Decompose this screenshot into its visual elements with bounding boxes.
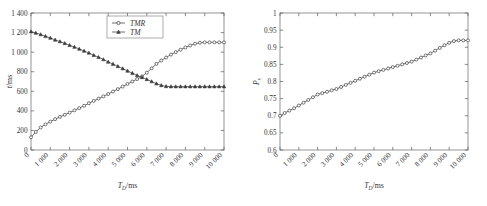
marker-circle-Ps bbox=[391, 66, 394, 69]
marker-circle-Ps bbox=[283, 112, 286, 115]
y-tick-label: 200 bbox=[17, 127, 28, 135]
marker-circle-TMR bbox=[107, 93, 110, 96]
y-tick-label: 0.85 bbox=[264, 61, 277, 69]
y-tick-label: 400 bbox=[17, 107, 28, 115]
marker-circle-Ps bbox=[311, 96, 314, 99]
marker-circle-TMR bbox=[39, 126, 42, 129]
marker-triangle-TM bbox=[29, 30, 32, 33]
x-tick-label: 9 000 bbox=[188, 151, 205, 168]
marker-circle-Ps bbox=[443, 44, 446, 47]
y-tick-label: 0 bbox=[24, 147, 28, 155]
marker-triangle-TM bbox=[68, 43, 71, 46]
marker-circle-Ps bbox=[457, 39, 460, 42]
plot-frame bbox=[280, 13, 468, 150]
legend-marker-circle bbox=[117, 21, 120, 24]
marker-circle-Ps bbox=[326, 90, 329, 93]
marker-circle-TMR bbox=[73, 109, 76, 112]
x-axis-unit: /ms bbox=[126, 181, 137, 190]
marker-circle-Ps bbox=[434, 49, 437, 52]
marker-circle-Ps bbox=[279, 114, 282, 117]
y-tick-label: 800 bbox=[17, 68, 28, 76]
marker-circle-TMR bbox=[169, 53, 172, 56]
y-tick-label: 0.75 bbox=[264, 95, 277, 103]
y-axis-unit: /ms bbox=[5, 75, 14, 86]
marker-circle-Ps bbox=[340, 85, 343, 88]
marker-circle-TMR bbox=[155, 62, 158, 65]
y-tick-label: 0.7 bbox=[268, 112, 277, 120]
marker-circle-TMR bbox=[194, 42, 197, 45]
x-tick-label: 10 000 bbox=[448, 151, 468, 171]
marker-circle-TMR bbox=[58, 115, 61, 118]
marker-circle-TMR bbox=[116, 88, 119, 91]
marker-triangle-TM bbox=[73, 45, 76, 48]
marker-circle-TMR bbox=[49, 120, 52, 123]
x-axis-title: TD/ms bbox=[118, 181, 138, 191]
marker-circle-Ps bbox=[373, 71, 376, 74]
marker-circle-Ps bbox=[344, 83, 347, 86]
x-tick-label: 7 000 bbox=[394, 151, 411, 168]
y-tick-label: 1 bbox=[273, 10, 277, 18]
marker-circle-TMR bbox=[34, 130, 37, 133]
marker-circle-TMR bbox=[218, 41, 221, 44]
figure-container: 01 0002 0003 0004 0005 0006 0007 0008 00… bbox=[0, 0, 487, 206]
x-tick-label: 8 000 bbox=[413, 151, 430, 168]
marker-circle-Ps bbox=[396, 64, 399, 67]
x-tick-label: 3 000 bbox=[72, 151, 89, 168]
x-tick-label: 6 000 bbox=[130, 151, 147, 168]
marker-triangle-TM bbox=[97, 55, 100, 58]
marker-triangle-TM bbox=[222, 85, 225, 88]
marker-circle-Ps bbox=[420, 56, 423, 59]
y-tick-label: 0.6 bbox=[268, 147, 277, 155]
marker-circle-TMR bbox=[184, 46, 187, 49]
marker-circle-TMR bbox=[198, 41, 201, 44]
y-tick-label: 1 400 bbox=[11, 10, 28, 18]
marker-triangle-TM bbox=[82, 49, 85, 52]
marker-triangle-TM bbox=[155, 82, 158, 85]
marker-triangle-TM bbox=[126, 69, 129, 72]
marker-circle-TMR bbox=[223, 41, 226, 44]
marker-circle-TMR bbox=[165, 56, 168, 59]
marker-circle-Ps bbox=[293, 107, 296, 110]
marker-triangle-TM bbox=[107, 60, 110, 63]
marker-circle-Ps bbox=[358, 77, 361, 80]
marker-circle-TMR bbox=[136, 78, 139, 81]
marker-circle-TMR bbox=[160, 59, 163, 62]
marker-circle-TMR bbox=[78, 107, 81, 110]
marker-circle-Ps bbox=[438, 46, 441, 49]
marker-triangle-TM bbox=[121, 67, 124, 70]
marker-circle-TMR bbox=[203, 41, 206, 44]
marker-triangle-TM bbox=[145, 78, 148, 81]
marker-circle-Ps bbox=[363, 75, 366, 78]
series-line-Ps bbox=[280, 40, 468, 115]
chart-panel-right: 01 0002 0003 0004 0005 0006 0007 0008 00… bbox=[244, 0, 487, 206]
marker-triangle-TM bbox=[87, 51, 90, 54]
x-tick-label: 2 000 bbox=[300, 151, 317, 168]
marker-triangle-TM bbox=[63, 42, 66, 45]
marker-circle-Ps bbox=[382, 68, 385, 71]
marker-circle-Ps bbox=[415, 58, 418, 61]
chart-panel-left: 01 0002 0003 0004 0005 0006 0007 0008 00… bbox=[0, 0, 243, 206]
y-tick-label: 1 000 bbox=[11, 49, 28, 57]
marker-triangle-TM bbox=[92, 53, 95, 56]
y-tick-label: 0.95 bbox=[264, 27, 277, 35]
marker-circle-Ps bbox=[401, 63, 404, 66]
x-tick-label: 5 000 bbox=[357, 151, 374, 168]
marker-circle-Ps bbox=[354, 79, 357, 82]
marker-triangle-TM bbox=[164, 85, 167, 88]
marker-circle-TMR bbox=[121, 85, 124, 88]
legend-label-TM: TM bbox=[130, 28, 141, 37]
marker-circle-Ps bbox=[467, 39, 470, 42]
x-tick-label: 4 000 bbox=[338, 151, 355, 168]
x-axis-unit: /ms bbox=[372, 181, 383, 190]
marker-triangle-TM bbox=[34, 31, 37, 34]
marker-triangle-TM bbox=[184, 85, 187, 88]
marker-circle-TMR bbox=[112, 90, 115, 93]
x-tick-label: 1 000 bbox=[282, 151, 299, 168]
marker-circle-Ps bbox=[410, 60, 413, 63]
marker-circle-Ps bbox=[448, 41, 451, 44]
x-tick-label: 4 000 bbox=[91, 151, 108, 168]
marker-circle-TMR bbox=[213, 41, 216, 44]
marker-circle-TMR bbox=[30, 136, 33, 139]
y-axis-subscript: s bbox=[256, 78, 262, 80]
marker-triangle-TM bbox=[150, 80, 153, 83]
